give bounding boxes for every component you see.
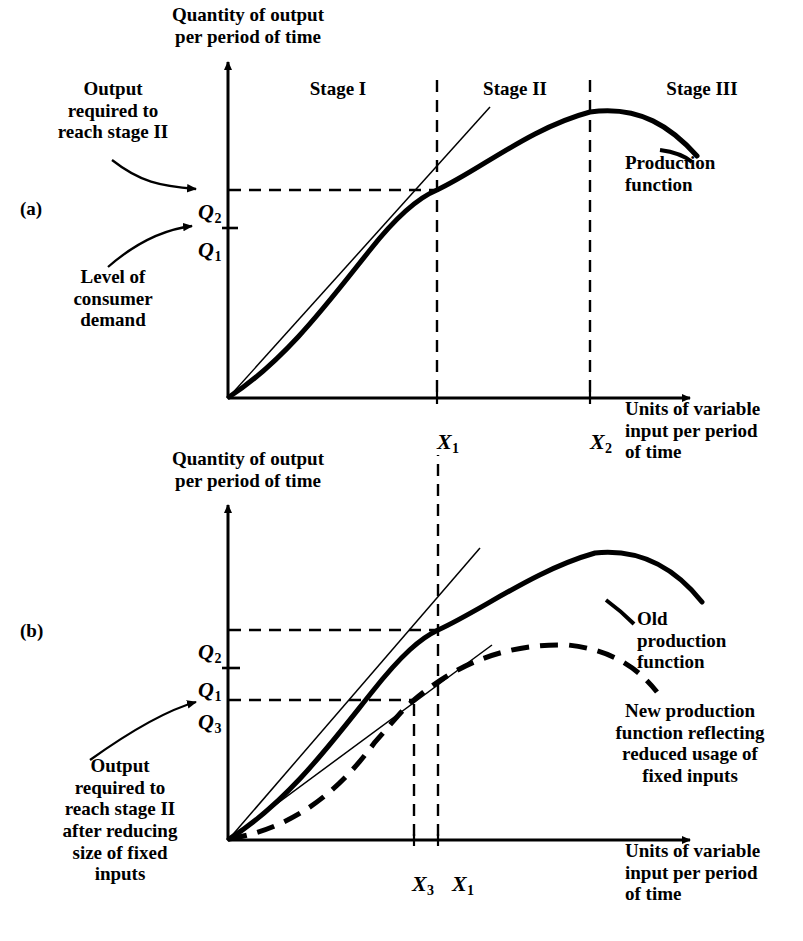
panel-a-x1-tick-label: X1	[415, 404, 459, 482]
panel-b-label: (b)	[20, 620, 43, 642]
panel-a-tick-marks	[222, 228, 590, 404]
panel-a-label: (a)	[20, 198, 42, 220]
panel-a-stage-3-label: Stage III	[666, 78, 737, 100]
panel-a-tangent-ray	[229, 107, 490, 397]
panel-b-x1-symbol: X	[452, 871, 467, 896]
panel-a-output-required-note: Output required to reach stage II	[13, 78, 213, 143]
panel-b-old-tangent-ray	[229, 548, 480, 839]
panel-b-new-production-function-note: New production function reflecting reduc…	[577, 700, 803, 787]
panel-a-x1-subscript: 1	[452, 441, 459, 456]
panel-b-x3-symbol: X	[412, 871, 427, 896]
panel-a-x2-symbol: X	[590, 429, 605, 454]
panel-b-x3-tick-label: X3	[390, 846, 434, 924]
panel-b-q3-symbol: Q	[198, 709, 214, 734]
panel-a-x2-subscript: 2	[605, 441, 612, 456]
panel-b-old-production-function-note: Old production function	[637, 608, 726, 673]
panel-a-stage-2-label: Stage II	[483, 78, 547, 100]
panel-a-q1-subscript: 1	[214, 249, 221, 264]
panel-b-x-axis-title: Units of variable input per period of ti…	[625, 840, 760, 905]
panel-a-x1-symbol: X	[437, 429, 452, 454]
panel-b-x1-subscript: 1	[467, 883, 474, 898]
panel-b-old-production-function-curve	[229, 552, 702, 839]
panel-b-old-function-leader	[606, 600, 634, 624]
panel-a-x2-tick-label: X2	[568, 404, 612, 482]
panel-a-q1-tick-label: Q1	[176, 212, 220, 290]
panel-b-x1-tick-label: X1	[430, 846, 474, 924]
production-function-figure: Quantity of output per period of time (a…	[0, 0, 803, 941]
panel-b-y-axis-title: Quantity of output per period of time	[118, 448, 378, 491]
panel-b-guide-lines	[229, 455, 438, 836]
panel-b-output-required-reduced-note: Output required to reach stage II after …	[12, 755, 228, 885]
panel-a-guide-lines	[229, 72, 590, 392]
panel-a-x-axis-title: Units of variable input per period of ti…	[625, 398, 760, 463]
panel-b-q3-subscript: 3	[214, 721, 221, 736]
panel-b-q3-tick-label: Q3	[176, 684, 220, 762]
panel-a-stage-1-label: Stage I	[310, 78, 366, 100]
panel-a-y-axis-title: Quantity of output per period of time	[118, 4, 378, 47]
panel-a-production-function-note: Production function	[625, 152, 715, 195]
panel-a-q1-symbol: Q	[198, 237, 214, 262]
